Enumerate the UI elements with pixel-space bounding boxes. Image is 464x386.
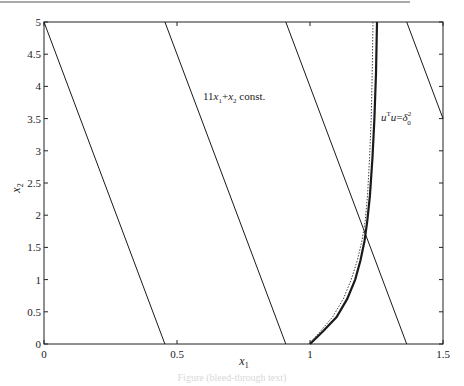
x-tick-label: 1 [307, 348, 313, 360]
y-tick-label: 3 [36, 145, 42, 157]
x-tick-label: 0.5 [170, 348, 184, 360]
y-tick-label: 1.5 [27, 241, 41, 253]
annotation-constant-lines: 11x1+x2 const. [203, 90, 266, 105]
y-tick-label: 4 [36, 80, 42, 92]
y-tick-label: 4.5 [27, 48, 41, 60]
y-tick-label: 5 [36, 16, 42, 28]
level-line [407, 22, 443, 119]
y-tick-label: 1 [36, 274, 42, 286]
y-tick-label: 3.5 [27, 113, 41, 125]
x-tick-label: 1.5 [436, 348, 450, 360]
plot-area: 00.511.500.511.522.533.544.55 [27, 16, 450, 360]
constraint-curve [310, 22, 377, 344]
y-tick-label: 2.5 [27, 177, 41, 189]
level-line [165, 22, 286, 344]
x-axis-label: x1 [238, 354, 248, 370]
y-axis-label: x2 [9, 183, 25, 193]
y-tick-label: 2 [36, 209, 42, 221]
y-tick-label: 0.5 [27, 306, 41, 318]
approx-curve-dotted [309, 22, 373, 344]
x-tick-label: 0 [41, 348, 47, 360]
annotation-constraint-curve: uTu=δ20 [381, 110, 412, 127]
y-tick-label: 0 [36, 338, 42, 350]
figure-caption-bleedthrough: Figure (bleed-through text) [0, 372, 464, 383]
level-line [44, 22, 165, 344]
level-line [286, 22, 407, 344]
chart-figure: 00.511.500.511.522.533.544.55 x1 x2 11x1… [0, 0, 464, 386]
axes-box [44, 22, 443, 344]
